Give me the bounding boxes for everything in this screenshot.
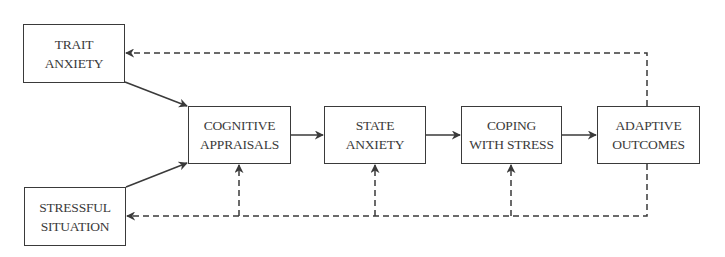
node-label-line2: APPRAISALS	[200, 135, 279, 154]
arrow-stressful-to-cognitive	[126, 163, 187, 187]
stress-anxiety-flow-diagram: TRAIT ANXIETY STRESSFUL SITUATION COGNIT…	[0, 0, 725, 257]
node-label-line1: STATE	[356, 116, 394, 135]
node-label-line2: SITUATION	[41, 217, 110, 236]
arrow-trait-to-cognitive	[125, 82, 187, 106]
feedback-adaptive-to-stressful	[127, 164, 647, 216]
node-label-line2: OUTCOMES	[612, 135, 685, 154]
node-label-line2: ANXIETY	[346, 135, 405, 154]
node-label-line1: COPING	[487, 116, 536, 135]
node-cognitive-appraisals: COGNITIVE APPRAISALS	[188, 106, 291, 164]
node-trait-anxiety: TRAIT ANXIETY	[23, 24, 125, 83]
node-label-line2: WITH STRESS	[469, 135, 553, 154]
node-label-line2: ANXIETY	[45, 54, 104, 73]
node-coping-with-stress: COPING WITH STRESS	[461, 106, 562, 164]
node-label-line1: COGNITIVE	[204, 116, 276, 135]
node-label-line1: ADAPTIVE	[616, 116, 682, 135]
node-label-line1: TRAIT	[55, 35, 94, 54]
node-state-anxiety: STATE ANXIETY	[324, 106, 426, 164]
node-adaptive-outcomes: ADAPTIVE OUTCOMES	[597, 106, 700, 164]
node-label-line1: STRESSFUL	[39, 198, 111, 217]
feedback-adaptive-to-trait	[126, 53, 647, 106]
node-stressful-situation: STRESSFUL SITUATION	[24, 187, 126, 246]
